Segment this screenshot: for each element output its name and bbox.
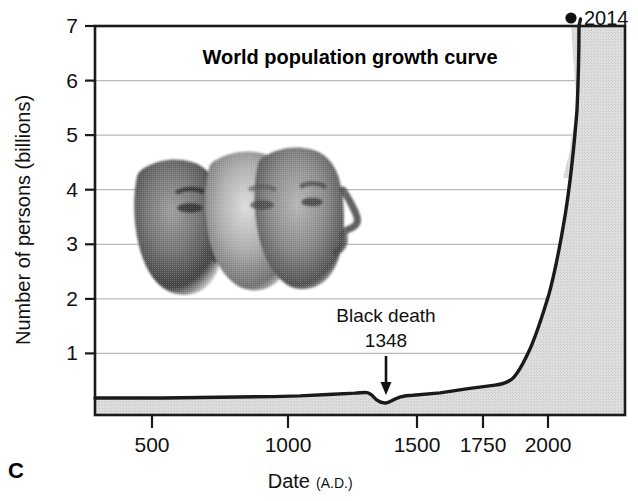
endpoint-dot-marker bbox=[565, 12, 576, 23]
x-axis-title-main: Date bbox=[268, 470, 310, 492]
x-axis-title-era: (A.D.) bbox=[316, 475, 353, 491]
endpoint-2014-label: 2014 bbox=[584, 7, 629, 29]
x-tick-label-500: 500 bbox=[134, 433, 169, 456]
panel-letter-c: C bbox=[8, 458, 24, 483]
y-tick-label-1: 1 bbox=[66, 341, 78, 364]
black-death-label-line1: Black death bbox=[336, 305, 435, 326]
three-face-profiles-image bbox=[130, 147, 358, 300]
y-tick-label-6: 6 bbox=[66, 69, 78, 92]
black-death-arrow-down-icon bbox=[381, 356, 392, 395]
x-axis-ticks bbox=[152, 415, 548, 428]
x-tick-label-1500: 1500 bbox=[394, 433, 441, 456]
y-tick-label-2: 2 bbox=[66, 287, 78, 310]
chart-title: World population growth curve bbox=[202, 46, 497, 68]
black-death-label-line2: 1348 bbox=[365, 330, 407, 351]
y-tick-label-4: 4 bbox=[66, 178, 78, 201]
y-axis-title: Number of persons (billions) bbox=[12, 95, 34, 345]
y-tick-label-5: 5 bbox=[66, 123, 78, 146]
x-tick-label-1000: 1000 bbox=[265, 433, 312, 456]
x-axis-tick-labels: 500 1000 1500 1750 2000 bbox=[134, 433, 571, 456]
y-tick-label-7: 7 bbox=[66, 14, 78, 37]
world-population-chart: 7 6 5 4 3 2 1 500 1000 1500 1750 2000 Da… bbox=[0, 0, 638, 501]
y-axis-ticks bbox=[85, 26, 95, 353]
x-tick-label-1750: 1750 bbox=[460, 433, 507, 456]
y-tick-label-3: 3 bbox=[66, 232, 78, 255]
figure-panel-c: 7 6 5 4 3 2 1 500 1000 1500 1750 2000 Da… bbox=[0, 0, 638, 501]
x-tick-label-2000: 2000 bbox=[525, 433, 572, 456]
x-axis-title: Date (A.D.) bbox=[268, 470, 353, 492]
black-death-annotation: Black death 1348 bbox=[336, 305, 435, 395]
y-axis-tick-labels: 7 6 5 4 3 2 1 bbox=[66, 14, 78, 364]
